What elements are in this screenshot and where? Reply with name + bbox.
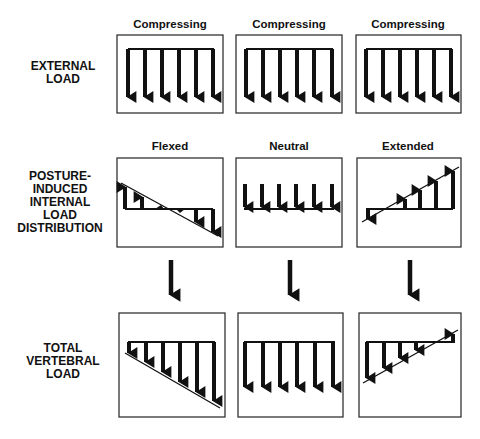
external-load-box-2 [236,35,342,113]
total-load-box-extended [359,313,461,417]
internal-load-box-extended [357,158,461,247]
diagram-graphics [0,0,480,439]
transition-arrows [171,260,410,295]
external-load-box-1 [117,35,223,113]
internal-load-box-flexed [117,158,223,247]
internal-load-box-neutral [236,158,342,247]
total-load-box-flexed [119,313,225,417]
external-load-box-3 [356,35,461,113]
total-load-box-neutral [238,313,343,417]
